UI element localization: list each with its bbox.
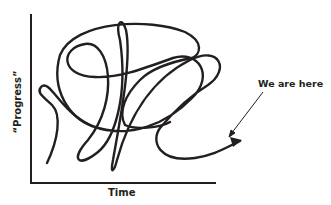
annotation-pointer <box>229 92 263 137</box>
x-axis-label: Time <box>108 187 135 198</box>
tangled-progress-line <box>39 22 240 170</box>
we-are-here-annotation: We are here <box>258 78 323 89</box>
y-axis-label: “Progress” <box>12 74 23 134</box>
progress-diagram <box>0 0 331 205</box>
